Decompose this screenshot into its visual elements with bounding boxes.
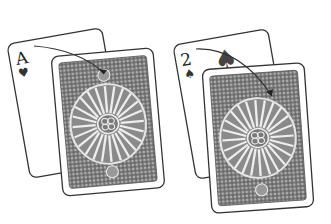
card-back-right	[202, 63, 314, 214]
left-card-group: A ♥	[7, 28, 165, 196]
card-back-left	[51, 48, 165, 196]
card-illustration: A ♥ 2 ♠ ♠	[0, 0, 331, 224]
right-card-group: 2 ♠ ♠	[173, 29, 314, 214]
